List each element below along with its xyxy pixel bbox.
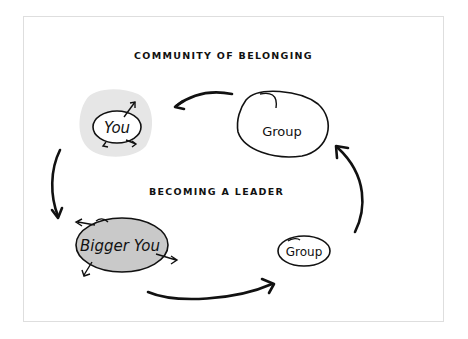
cycle-diagram: You Group Bigger You Group [0,0,468,339]
arrowhead-group-to-you-icon [175,101,184,109]
bigger-you-arrow-down-icon [82,262,92,276]
node-you: You [80,89,153,157]
node-group-bottom: Group [278,236,330,266]
arrow-you-to-bigger-you [52,150,60,216]
you-label: You [104,119,130,137]
bigger-you-arrow-left-icon [76,219,95,226]
node-bigger-you: Bigger You [76,218,177,276]
bigger-you-label: Bigger You [80,237,160,255]
node-group-top: Group [237,91,328,157]
arrow-bigger-you-to-group [148,284,272,299]
arrow-group-to-you [176,93,232,107]
arrow-group-to-group [338,148,362,232]
group-bottom-label: Group [286,245,323,259]
group-top-label: Group [262,124,302,139]
